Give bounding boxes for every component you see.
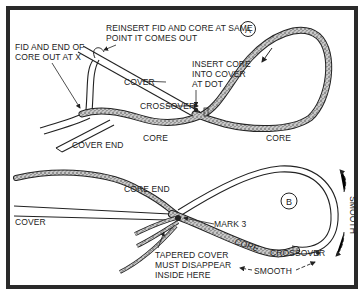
- label-reinsert-2: POINT IT COMES OUT: [106, 33, 197, 43]
- badge-b: B: [281, 193, 297, 209]
- splice-diagram: A REINSERT FID AND CORE AT SAME POINT IT…: [0, 0, 364, 295]
- panel-b: B CORE END COVER MARK 3 TAPERED COVER MU…: [14, 166, 358, 280]
- label-tapered-1: TAPERED COVER: [155, 250, 228, 260]
- label-mark3: MARK 3: [214, 219, 246, 229]
- label-core-a-left: CORE: [143, 133, 168, 143]
- label-crossover-b: CROSSOVER: [270, 248, 325, 258]
- label-fid-1: FID AND END OF: [15, 42, 84, 52]
- mark3-dot: [175, 215, 181, 221]
- label-smooth-right: SMOOTH: [348, 196, 358, 234]
- label-cover-a: COVER: [124, 77, 155, 87]
- label-core-b: CORE: [233, 236, 260, 253]
- label-insert-1: INSERT CORE: [192, 59, 251, 69]
- label-tapered-2: MUST DISAPPEAR: [155, 260, 231, 270]
- loop-rope-b: [178, 166, 338, 254]
- badge-b-label: B: [286, 197, 292, 207]
- fid-tube: [86, 60, 93, 110]
- label-tapered-3: INSIDE HERE: [155, 270, 211, 280]
- panel-a: A REINSERT FID AND CORE AT SAME POINT IT…: [15, 22, 329, 153]
- label-crossover-a: CROSSOVER: [140, 101, 195, 111]
- label-smooth-bottom: SMOOTH: [254, 266, 292, 276]
- label-core-a-right: CORE: [266, 133, 291, 143]
- direction-arrow-icon: [262, 48, 272, 62]
- label-cover-end: COVER END: [72, 140, 123, 150]
- label-insert-3: AT DOT: [192, 79, 223, 89]
- label-insert-2: INTO COVER: [192, 69, 246, 79]
- label-core-end: CORE END: [124, 184, 170, 194]
- label-fid-2: CORE OUT AT X: [15, 52, 81, 62]
- label-reinsert-1: REINSERT FID AND CORE AT SAME: [106, 23, 253, 33]
- label-cover-b: COVER: [15, 217, 46, 227]
